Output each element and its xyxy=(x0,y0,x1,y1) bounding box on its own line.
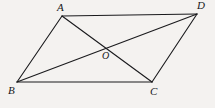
vertex-label-O: O xyxy=(102,50,109,61)
side-DC-line xyxy=(152,14,197,82)
vertex-label-A: A xyxy=(57,2,64,13)
side-AB-line xyxy=(17,16,62,82)
vertex-label-D: D xyxy=(197,0,205,11)
geometry-figure: A D B C O xyxy=(0,0,215,108)
diagonal-BD-line xyxy=(17,14,197,82)
diagonal-AC-line xyxy=(62,16,152,82)
vertex-label-B: B xyxy=(8,85,15,96)
vertex-label-C: C xyxy=(150,86,157,97)
side-AD-line xyxy=(62,14,197,16)
